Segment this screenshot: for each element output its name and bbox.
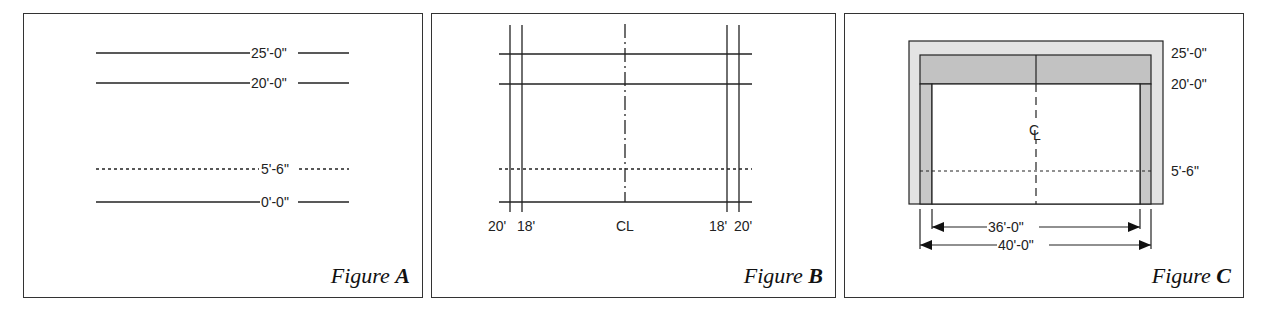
elevation-label-0: 0'-0" <box>261 194 289 210</box>
dimension-40: 40'-0" <box>998 237 1034 253</box>
elevation-label-20: 20'-0" <box>1171 76 1207 92</box>
elevation-label-25: 25'-0" <box>251 45 287 61</box>
elevation-label-5-6: 5'-6" <box>261 161 289 177</box>
elevation-label-20: 20'-0" <box>251 75 287 91</box>
figure-b-drawing: 20' 18' CL 18' 20' <box>432 14 837 299</box>
figure-c-caption: Figure C <box>1152 263 1231 289</box>
figure-b-panel: 20' 18' CL 18' 20' Figure B <box>431 13 836 298</box>
grid-label-right-20: 20' <box>734 218 752 234</box>
elevation-label-25: 25'-0" <box>1171 45 1207 61</box>
grid-label-left-20: 20' <box>488 218 506 234</box>
figure-c-panel: C L 36'-0" 40'-0" 25'-0" 20'-0" 5'-6" Fi… <box>844 13 1244 298</box>
dimension-36: 36'-0" <box>988 219 1024 235</box>
centerline-symbol-l: L <box>1033 127 1041 143</box>
grid-label-left-18: 18' <box>517 218 535 234</box>
grid-label-cl: CL <box>616 218 634 234</box>
right-column <box>1140 84 1151 204</box>
figure-a-drawing: 25'-0" 20'-0" 5'-6" 0'-0" <box>24 14 424 299</box>
figure-c-drawing: C L 36'-0" 40'-0" 25'-0" 20'-0" 5'-6" <box>845 14 1245 299</box>
elevation-label-5-6: 5'-6" <box>1171 163 1199 179</box>
left-column <box>920 84 932 204</box>
grid-label-right-18: 18' <box>709 218 727 234</box>
figure-b-caption: Figure B <box>744 263 823 289</box>
figure-a-caption: Figure A <box>331 263 410 289</box>
figure-a-panel: 25'-0" 20'-0" 5'-6" 0'-0" Figure A <box>23 13 423 298</box>
